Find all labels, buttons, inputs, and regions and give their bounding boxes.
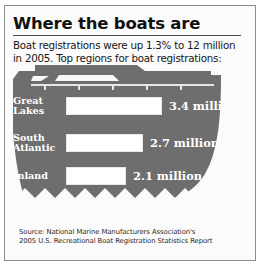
bar-south-atlantic	[66, 134, 143, 152]
source-note: Source: National Marine Manufacturers As…	[19, 228, 239, 246]
bar-value-label: 3.4 million	[169, 99, 238, 113]
bar-rows: Great Lakes 3.4 million South Atlantic 2…	[5, 62, 255, 212]
infographic-panel: Where the boats are Boat registrations w…	[0, 0, 261, 266]
chart-area: Great Lakes 3.4 million South Atlantic 2…	[5, 62, 255, 212]
bar-row-inland: Inland 2.1 million	[13, 165, 202, 187]
bar-value-label: 2.7 million	[150, 136, 219, 150]
page-title: Where the boats are	[13, 14, 241, 33]
source-line-2: 2005 U.S. Recreational Boat Registration…	[19, 237, 239, 246]
bar-row-south-atlantic: South Atlantic 2.7 million	[13, 132, 219, 154]
bar-category-label: South Atlantic	[13, 133, 66, 154]
bar-category-label: Great Lakes	[13, 96, 66, 117]
bar-great-lakes	[66, 97, 162, 115]
source-line-1: Source: National Marine Manufacturers As…	[19, 228, 239, 237]
subtitle: Boat registrations were up 1.3% to 12 mi…	[13, 39, 241, 64]
title-divider	[13, 35, 241, 36]
bar-category-label: Inland	[13, 171, 66, 181]
bar-inland	[66, 167, 126, 185]
bar-row-great-lakes: Great Lakes 3.4 million	[13, 95, 238, 117]
header: Where the boats are Boat registrations w…	[13, 14, 241, 64]
bar-value-label: 2.1 million	[133, 169, 202, 183]
